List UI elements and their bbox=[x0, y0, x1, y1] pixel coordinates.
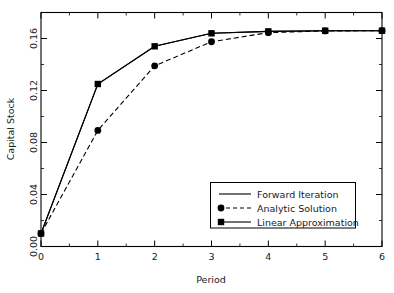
x-tick-label: 5 bbox=[322, 251, 328, 262]
y-tick-label: 0.16 bbox=[28, 28, 39, 49]
y-tick-label: 0.04 bbox=[28, 184, 39, 205]
x-tick-label: 4 bbox=[265, 251, 271, 262]
x-tick-label: 3 bbox=[208, 251, 214, 262]
legend-label: Linear Approximation bbox=[257, 217, 359, 228]
data-point-marker bbox=[38, 230, 44, 236]
legend-label: Forward Iteration bbox=[257, 189, 339, 200]
chart-legend: Forward IterationAnalytic SolutionLinear… bbox=[211, 183, 359, 229]
data-point-marker bbox=[151, 62, 158, 69]
data-point-marker bbox=[94, 127, 101, 134]
legend-square-marker bbox=[218, 219, 224, 225]
chart-figure: 0123456 0.000.040.080.120.16 Period Capi… bbox=[0, 0, 394, 293]
capital-stock-line-chart: 0123456 0.000.040.080.120.16 Period Capi… bbox=[0, 0, 394, 293]
data-point-marker bbox=[95, 81, 101, 87]
y-tick-label: 0.12 bbox=[28, 80, 39, 101]
data-point-marker bbox=[151, 43, 157, 49]
data-point-marker bbox=[379, 28, 385, 34]
legend-label: Analytic Solution bbox=[257, 203, 337, 214]
y-tick-label: 0.08 bbox=[28, 132, 39, 153]
y-axis-title: Capital Stock bbox=[5, 97, 16, 160]
x-axis-title: Period bbox=[196, 274, 226, 285]
data-point-marker bbox=[322, 28, 328, 34]
data-point-marker bbox=[265, 28, 271, 34]
y-tick-label: 0.00 bbox=[28, 236, 39, 257]
x-tick-label: 6 bbox=[379, 251, 385, 262]
data-point-marker bbox=[208, 38, 215, 45]
figure-background bbox=[0, 0, 394, 293]
x-tick-label: 1 bbox=[95, 251, 101, 262]
legend-circle-marker bbox=[218, 205, 225, 212]
x-tick-label: 2 bbox=[152, 251, 158, 262]
data-point-marker bbox=[208, 30, 214, 36]
x-tick-label: 0 bbox=[38, 251, 44, 262]
